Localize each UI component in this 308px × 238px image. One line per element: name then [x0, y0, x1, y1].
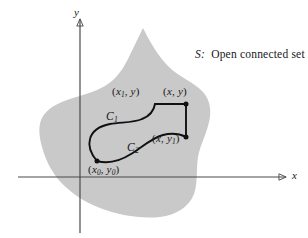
diagram-canvas: [0, 0, 308, 238]
figure-open-connected-set: y x S: Open connected set (x1, y) (x, y)…: [0, 0, 308, 238]
point-label-x-y1: (x, y1): [152, 133, 180, 145]
curve-c2-subscript: 2: [135, 146, 139, 155]
point-dot-xy1: [184, 135, 189, 140]
point-label-x-y: (x, y): [163, 86, 187, 97]
caption-set-symbol: S:: [195, 48, 205, 60]
point-label-x0-y0: (x0, y0): [88, 164, 119, 176]
axis-label-y: y: [74, 7, 79, 18]
curve-c1-subscript: 1: [114, 115, 118, 124]
curve-c2-letter: C: [127, 141, 135, 153]
curve-c1-letter: C: [106, 110, 114, 122]
axis-label-x: x: [292, 170, 297, 181]
caption-open-connected-set: S: Open connected set: [195, 49, 305, 61]
curve-label-c2: C2: [127, 142, 139, 155]
point-label-x1-y: (x1, y): [112, 86, 140, 98]
caption-description-text: Open connected set: [211, 48, 305, 60]
curve-label-c1: C1: [106, 111, 118, 124]
point-dot-xy: [184, 102, 189, 107]
